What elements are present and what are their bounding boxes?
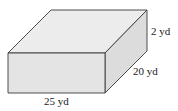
depth-label: 20 yd — [133, 65, 158, 77]
rectangular-prism-diagram: 2 yd 20 yd 25 yd — [0, 0, 178, 111]
height-label: 2 yd — [151, 25, 171, 37]
prism-front-face — [8, 53, 105, 93]
length-label: 25 yd — [44, 95, 69, 107]
